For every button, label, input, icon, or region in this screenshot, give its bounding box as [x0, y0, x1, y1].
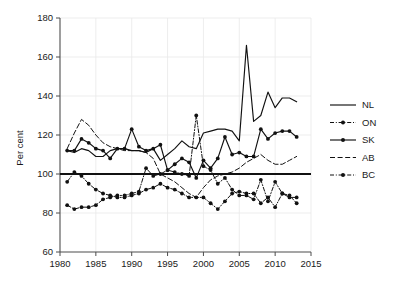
- data-point-bc: [194, 114, 198, 118]
- data-point-bc: [230, 188, 234, 192]
- legend-marker-sk: [341, 138, 345, 142]
- chart-legend: NLONSKABBC: [330, 99, 376, 180]
- y-tick-label: 160: [37, 51, 53, 62]
- data-point-sk: [80, 137, 84, 141]
- data-point-bc: [237, 194, 241, 198]
- x-tick-label: 2015: [300, 258, 321, 269]
- y-axis-ticks: 6080100120140160180: [37, 12, 60, 257]
- data-point-bc: [151, 174, 155, 178]
- data-point-bc: [216, 182, 220, 186]
- y-tick-label: 120: [37, 129, 53, 140]
- data-point-on: [194, 196, 198, 200]
- data-point-bc: [144, 166, 148, 170]
- data-point-on: [80, 174, 84, 178]
- series-line-sk: [67, 129, 296, 178]
- x-tick-label: 1985: [85, 258, 106, 269]
- legend-label-on: ON: [362, 117, 376, 128]
- data-point-on: [159, 182, 163, 186]
- data-point-bc: [94, 203, 98, 207]
- legend-label-sk: SK: [362, 134, 375, 145]
- data-point-sk: [151, 147, 155, 151]
- data-point-on: [252, 192, 256, 196]
- data-point-sk: [194, 176, 198, 180]
- x-tick-label: 2010: [265, 258, 286, 269]
- data-point-on: [295, 201, 299, 205]
- data-point-sk: [101, 149, 105, 153]
- data-point-on: [230, 192, 234, 196]
- data-point-on: [65, 180, 69, 184]
- data-point-on: [166, 186, 170, 190]
- y-tick-label: 80: [42, 207, 53, 218]
- data-point-sk: [216, 157, 220, 161]
- x-tick-label: 1995: [157, 258, 178, 269]
- data-point-sk: [108, 157, 112, 161]
- data-point-on: [273, 205, 277, 209]
- series-layer: [67, 45, 296, 209]
- data-point-bc: [87, 205, 91, 209]
- data-point-bc: [280, 192, 284, 196]
- data-point-on: [144, 188, 148, 192]
- data-point-on: [101, 192, 105, 196]
- data-point-bc: [266, 199, 270, 203]
- data-point-bc: [245, 194, 249, 198]
- data-point-sk: [273, 131, 277, 135]
- legend-marker-on: [341, 121, 345, 125]
- data-point-bc: [273, 180, 277, 184]
- data-point-bc: [72, 207, 76, 211]
- data-point-bc: [166, 168, 170, 172]
- data-point-sk: [223, 135, 227, 139]
- data-point-sk: [230, 153, 234, 157]
- x-tick-label: 1990: [121, 258, 142, 269]
- data-point-bc: [259, 178, 263, 182]
- data-point-sk: [259, 127, 263, 131]
- data-point-on: [223, 199, 227, 203]
- data-point-bc: [101, 197, 105, 201]
- data-point-sk: [266, 137, 270, 141]
- data-point-sk: [130, 127, 134, 131]
- data-point-sk: [280, 129, 284, 133]
- data-point-bc: [108, 196, 112, 200]
- data-point-on: [173, 188, 177, 192]
- x-tick-label: 2000: [193, 258, 214, 269]
- y-tick-label: 60: [42, 246, 53, 257]
- data-point-sk: [65, 149, 69, 153]
- data-point-bc: [159, 172, 163, 176]
- data-point-on: [202, 196, 206, 200]
- legend-marker-bc: [341, 173, 345, 177]
- data-point-bc: [288, 196, 292, 200]
- data-point-on: [209, 201, 213, 205]
- data-point-on: [187, 196, 191, 200]
- data-point-sk: [115, 147, 119, 151]
- chart-figure: 6080100120140160180 19801985199019952000…: [0, 0, 406, 283]
- data-point-sk: [123, 147, 127, 151]
- data-point-sk: [237, 151, 241, 155]
- data-point-bc: [295, 196, 299, 200]
- y-tick-label: 180: [37, 12, 53, 23]
- data-point-bc: [187, 174, 191, 178]
- data-point-sk: [202, 158, 206, 162]
- legend-label-bc: BC: [362, 169, 375, 180]
- data-point-sk: [173, 162, 177, 166]
- data-point-sk: [252, 155, 256, 159]
- data-point-bc: [173, 170, 177, 174]
- data-point-on: [180, 192, 184, 196]
- data-point-on: [266, 196, 270, 200]
- data-point-bc: [223, 176, 227, 180]
- data-point-sk: [72, 149, 76, 153]
- data-point-bc: [65, 203, 69, 207]
- data-point-bc: [252, 197, 256, 201]
- data-point-bc: [202, 164, 206, 168]
- data-point-on: [87, 182, 91, 186]
- y-axis-title: Per cent: [14, 130, 25, 166]
- data-point-on: [237, 190, 241, 194]
- data-point-bc: [123, 194, 127, 198]
- series-line-nl: [67, 45, 296, 160]
- data-point-on: [94, 188, 98, 192]
- data-point-bc: [137, 190, 141, 194]
- data-point-sk: [288, 129, 292, 133]
- data-point-sk: [159, 143, 163, 147]
- legend-label-nl: NL: [362, 99, 374, 110]
- markers-layer: [65, 114, 298, 211]
- x-tick-label: 2005: [229, 258, 250, 269]
- x-tick-label: 1980: [49, 258, 70, 269]
